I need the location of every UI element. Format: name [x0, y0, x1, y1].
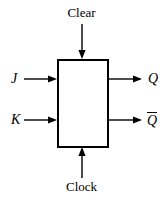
q-output-label: Q	[148, 72, 158, 86]
clock-arrowhead-icon	[78, 147, 85, 156]
diagram-canvas	[0, 0, 167, 202]
k-arrowhead-icon	[48, 116, 57, 123]
q-arrowhead-icon	[133, 75, 142, 82]
clear-arrowhead-icon	[78, 50, 85, 59]
clear-input-label: Clear	[0, 6, 165, 19]
q-bar-arrowhead-icon	[133, 116, 142, 123]
q-bar-overline: Q	[147, 112, 157, 128]
j-arrowhead-icon	[48, 75, 57, 82]
k-input-label: K	[11, 113, 20, 127]
j-input-label: J	[11, 72, 17, 86]
q-bar-output-label: Q	[147, 112, 157, 128]
flip-flop-body	[58, 60, 108, 147]
clock-input-label: Clock	[0, 180, 165, 193]
jk-flip-flop-diagram: Clear J K Clock Q Q	[0, 0, 167, 202]
